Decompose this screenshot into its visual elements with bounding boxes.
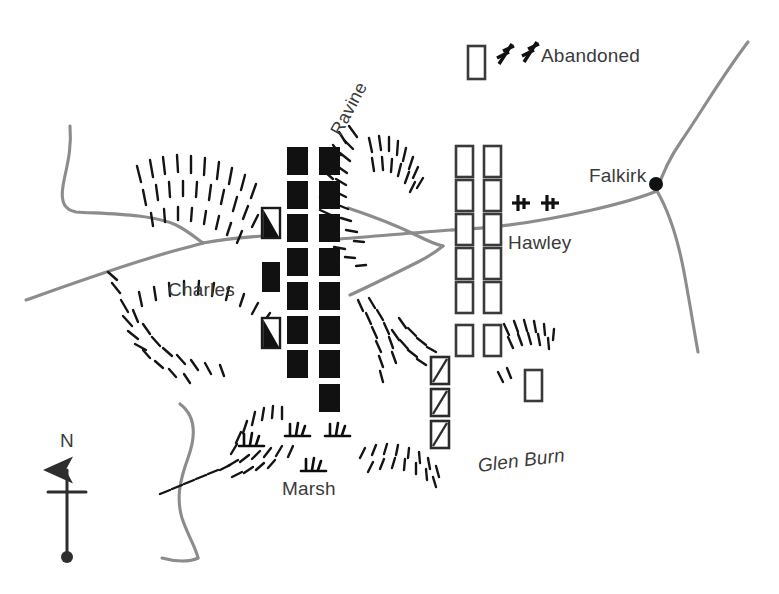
government-second-line [484,146,501,356]
label-marsh: Marsh [282,478,336,500]
unit-block-solid [319,181,340,209]
falkirk-town-dot [649,177,663,191]
artillery-abandoned-guns [497,42,539,64]
jacobite-front-line [287,147,308,378]
unit-block-hollow [484,214,501,245]
unit-block-hollow [456,146,473,177]
marsh-tuft [285,423,310,436]
road-falkirk-junction-north [657,42,748,191]
hachure-field-north-charles [137,155,258,243]
unit-block-hollow-abandoned [468,46,485,79]
unit-block-solid [319,384,340,412]
label-charles: Charles [168,279,235,301]
unit-block-hollow [456,214,473,245]
unit-block-solid [319,248,340,276]
unit-block-solid [319,214,340,242]
unit-block-solid [319,282,340,310]
marsh-tuft [239,433,264,446]
cannon-icon [522,42,539,62]
jacobite-left-detached [262,208,280,348]
unit-block-half [262,208,280,238]
government-routed-column [431,357,449,448]
unit-block-slash [431,357,449,384]
unit-block-solid [287,214,308,242]
marsh-tuft [325,423,350,436]
label-north: N [60,430,74,452]
hachure-field-marsh-right [360,444,439,487]
label-abandoned: Abandoned [541,45,640,67]
hachure-field-ravine-right [369,136,423,192]
unit-block-solid [319,350,340,378]
unit-block-hollow [484,180,501,211]
label-hawley: Hawley [508,232,572,254]
marsh-tuft [301,458,326,471]
ravine-edge-upper [348,208,443,246]
jacobite-second-line [319,147,340,412]
unit-block-hollow-reserve [525,370,542,401]
unit-block-solid [287,316,308,344]
unit-block-hollow [456,282,473,313]
unit-block-solid [287,248,308,276]
unit-block-slash [431,421,449,448]
unit-block-solid [319,316,340,344]
ravine-edge-lower [350,246,443,295]
unit-block-slash [431,389,449,416]
road-junction-to-east [203,236,262,243]
unit-block-solid [319,147,340,175]
cannon-icon [541,195,559,211]
road-network [26,42,748,561]
government-front-line [456,146,473,356]
marsh-tuft-group [239,423,350,471]
unit-block-solid [262,262,280,292]
unit-block-solid [287,181,308,209]
map-canvas [0,0,779,594]
unit-block-hollow [456,325,473,356]
unit-block-hollow [456,180,473,211]
unit-block-half [262,318,280,348]
unit-block-hollow [456,248,473,279]
hachure-field-south-ravine-lower [392,318,436,365]
cannon-icon [512,195,530,211]
cannon-icon [497,44,514,64]
label-falkirk: Falkirk [589,165,646,187]
battle-map: Falkirk Hawley Charles Abandoned Marsh G… [0,0,779,594]
unit-block-solid [287,350,308,378]
unit-block-solid [287,147,308,175]
stream-southwest-tail [162,558,198,561]
unit-block-hollow [484,282,501,313]
unit-block-hollow [484,146,501,177]
artillery-hawley-guns [512,195,559,211]
road-falkirk-junction-south [657,191,698,352]
unit-block-hollow [484,248,501,279]
compass-rose [48,470,86,563]
unit-block-solid [287,282,308,310]
hachure-field-ravine-south [358,298,396,382]
unit-block-hollow [484,325,501,356]
